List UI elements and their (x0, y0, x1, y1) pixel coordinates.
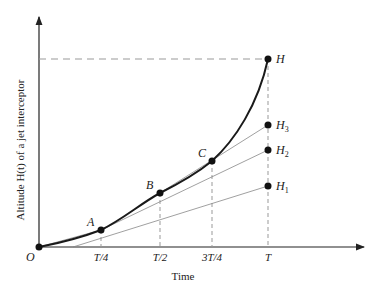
point-h (265, 56, 272, 63)
point-c (209, 158, 216, 165)
point-h2 (265, 147, 272, 154)
tick-t4: T/4 (94, 251, 109, 263)
tangent-line-b (101, 150, 268, 230)
label-h1: H1 (275, 179, 289, 195)
tick-t2: T/2 (153, 251, 168, 263)
origin-label: O (26, 250, 35, 264)
tick-3t4: 3T/4 (201, 251, 223, 263)
altitude-diagram: A B C H H3 H2 H1 O T/4 T/2 3T/4 T Time A… (0, 0, 376, 296)
label-h2: H2 (275, 143, 289, 159)
x-axis-title: Time (172, 270, 195, 282)
tick-t: T (265, 251, 272, 263)
y-axis-title: Altitude H(t) of a jet interceptor (14, 79, 27, 220)
label-c: C (198, 146, 207, 160)
point-a (98, 227, 105, 234)
point-b (157, 190, 164, 197)
label-h3: H3 (275, 118, 289, 134)
label-b: B (146, 178, 154, 192)
altitude-curve (39, 59, 268, 247)
point-o (36, 244, 43, 251)
tangent-line-a (73, 186, 268, 247)
label-a: A (86, 215, 95, 229)
label-h: H (275, 52, 286, 66)
point-h3 (265, 122, 272, 129)
point-h1 (265, 183, 272, 190)
